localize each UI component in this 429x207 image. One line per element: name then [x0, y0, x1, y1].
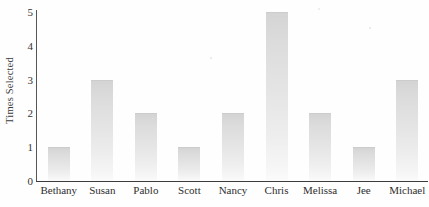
- bar[interactable]: [309, 113, 331, 181]
- bar-slot: [298, 0, 342, 181]
- bar-chart: Times Selected 012345 BethanySusanPabloS…: [0, 0, 429, 207]
- y-tick-label: 1: [5, 141, 33, 153]
- x-tick-label: Michael: [385, 184, 429, 196]
- bar[interactable]: [353, 147, 375, 181]
- x-tick-label: Bethany: [37, 184, 81, 196]
- bar-slot: [385, 0, 429, 181]
- x-tick-label: Scott: [168, 184, 212, 196]
- bar-slot: [124, 0, 168, 181]
- bar[interactable]: [266, 12, 288, 181]
- y-tick-label: 5: [5, 6, 33, 18]
- bar-slot: [37, 0, 81, 181]
- bar[interactable]: [135, 113, 157, 181]
- bar-slot: [168, 0, 212, 181]
- bar[interactable]: [48, 147, 70, 181]
- bar[interactable]: [396, 80, 418, 181]
- bar-slot: [255, 0, 299, 181]
- bar-slot: [81, 0, 125, 181]
- y-tick-label: 0: [5, 175, 33, 187]
- bar[interactable]: [222, 113, 244, 181]
- x-axis-tick-labels: BethanySusanPabloScottNancyChrisMelissaJ…: [37, 184, 429, 207]
- x-tick-label: Susan: [81, 184, 125, 196]
- x-tick-label: Pablo: [124, 184, 168, 196]
- x-tick-label: Chris: [255, 184, 299, 196]
- bar-slot: [211, 0, 255, 181]
- bar[interactable]: [91, 80, 113, 181]
- bar-slot: [342, 0, 386, 181]
- bar[interactable]: [178, 147, 200, 181]
- x-axis-line: [36, 181, 428, 182]
- y-tick-label: 4: [5, 40, 33, 52]
- x-tick-label: Melissa: [298, 184, 342, 196]
- x-tick-label: Nancy: [211, 184, 255, 196]
- x-tick-label: Jee: [342, 184, 386, 196]
- y-tick-label: 3: [5, 74, 33, 86]
- y-tick-label: 2: [5, 107, 33, 119]
- plot-area: [37, 0, 429, 181]
- y-axis-tick-labels: 012345: [0, 0, 33, 207]
